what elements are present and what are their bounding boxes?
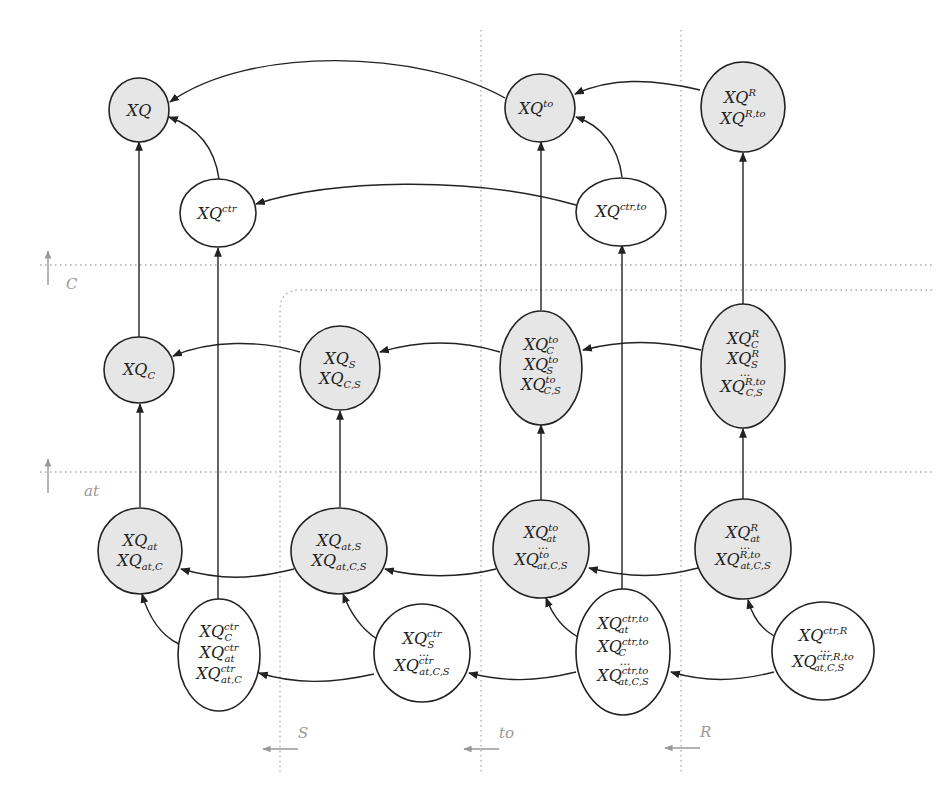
label-XQ: XQ [125,101,152,120]
edge-XQctrR-XQRat [748,600,774,636]
label-XQtoC-line3: XQtoC,S [519,374,561,396]
edge-XQctrS-XQatS [343,594,377,639]
edge-XQR-XQto [575,81,700,94]
node-XQS [300,326,380,410]
node-XQatS [291,508,387,594]
edge-XQctrto-XQctr [256,184,576,205]
edge-XQctrtoat-XQtoat [546,598,578,637]
dimension-label-R: R [699,723,711,741]
edge-XQRC-XQtoC [583,343,701,351]
label-XQctrC-line3: XQctrat,C [194,663,242,685]
query-lattice-diagram: C at S to R [0,0,939,792]
label-XQctrR-line3: XQctr,R,toat,C,S [790,651,854,673]
edge-XQctrC-XQat [142,594,179,644]
edge-XQctr-XQ [169,117,219,179]
label-XQRC-line1: XQRC [725,328,760,350]
edge-XQctrR-XQctrtoat [671,672,774,680]
label-XQtoC-line2: XQtoS [522,354,559,376]
edge-XQRat-XQtoat [589,568,698,576]
dimension-label-at: at [84,482,100,500]
edge-XQtoC-XQS [380,343,500,352]
edge-XQatS-XQat [181,569,294,577]
node-XQctrto [576,178,666,246]
edge-XQto-XQ [170,61,505,102]
edge-XQctrtoat-XQctrS [469,672,576,680]
label-XQRC-line4: XQR,toC,S [718,376,765,398]
edges [139,61,774,682]
node-XQR [701,62,785,152]
label-XQtoC-line1: XQtoC [522,334,559,356]
edge-XQS-XQC [173,343,300,356]
edge-XQctrS-XQctrC [259,673,374,681]
label-XQctrC-line2: XQctrat [198,642,240,664]
dimension-label-S: S [298,724,308,742]
dimension-label-to: to [499,724,514,742]
label-XQctrtoat-line4: XQctr,toat,C,S [595,665,649,687]
edge-XQtoat-XQatS [385,569,496,576]
dimension-label-C: C [66,275,78,293]
edge-XQctrto-XQto [576,117,622,177]
